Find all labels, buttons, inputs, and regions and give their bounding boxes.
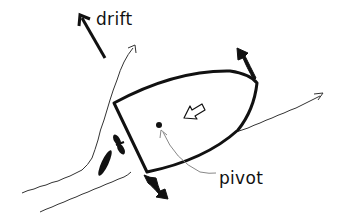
- drift-label: drift: [96, 11, 132, 28]
- stern-rotation-arrow-icon: [144, 175, 168, 199]
- boat-hull: [114, 71, 257, 172]
- wake-line-lower: [40, 172, 131, 212]
- propeller-icon: [111, 133, 126, 155]
- pivot-dot: [156, 122, 162, 128]
- pivot-label: pivot: [219, 170, 263, 187]
- wake-line-upper: [22, 48, 133, 193]
- boat-pivot-diagram: [0, 0, 339, 223]
- rudder-icon: [96, 149, 114, 177]
